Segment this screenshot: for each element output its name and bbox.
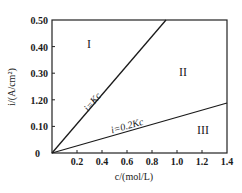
region-label-3: III: [197, 123, 209, 137]
x-tick-label: 0.6: [121, 156, 134, 167]
x-tick-label: 1.0: [171, 156, 184, 167]
origin-label: 0: [35, 148, 40, 159]
y-tick-label: 1.20: [31, 95, 49, 106]
chart: 0.10 1.20 0.30 0.40 0.50 0 i/(A/cm²) 0.2…: [0, 0, 242, 193]
y-tick-label: 0.40: [31, 42, 49, 53]
x-tick-label: 1.4: [221, 156, 234, 167]
y-axis: 0.10 1.20 0.30 0.40 0.50 0 i/(A/cm²): [6, 15, 55, 159]
x-tick-label: 1.2: [196, 156, 209, 167]
y-tick-label: 0.30: [31, 68, 49, 79]
y-tick-label: 0.10: [31, 121, 49, 132]
x-tick-label: 0.4: [96, 156, 109, 167]
x-tick-label: 0.2: [71, 156, 84, 167]
x-axis-label: c/(mol/L): [115, 171, 153, 183]
series-line-i-kc: [52, 20, 166, 153]
x-axis: 0.2 0.4 0.6 0.8 1.0 1.2 1.4 c/(mol/L): [71, 150, 234, 183]
x-tick-label: 0.8: [146, 156, 159, 167]
line-label-upper: i=Kc: [81, 90, 103, 113]
region-label-1: I: [87, 37, 91, 51]
region-label-2: II: [179, 65, 187, 79]
line-label-lower: i=0.2Kc: [110, 116, 145, 136]
y-tick-label: 0.50: [31, 15, 49, 26]
y-axis-label: i/(A/cm²): [6, 68, 18, 105]
